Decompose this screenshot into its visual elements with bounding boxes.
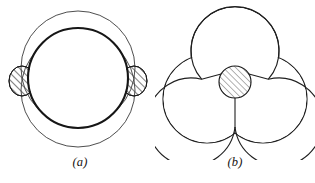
inner-sphere-fill-3 <box>29 29 127 127</box>
figure-root: (a) <box>0 0 315 183</box>
panel-b-drawing <box>155 0 315 160</box>
panel-b-label: (b) <box>155 156 315 169</box>
central-contact-region <box>219 66 251 98</box>
panel-a-label: (a) <box>0 156 160 169</box>
figure-panel-b: (b) <box>155 0 315 183</box>
panel-a-drawing <box>0 0 160 160</box>
cropped-caption-remnant <box>0 176 315 183</box>
figure-panel-a: (a) <box>0 0 160 183</box>
